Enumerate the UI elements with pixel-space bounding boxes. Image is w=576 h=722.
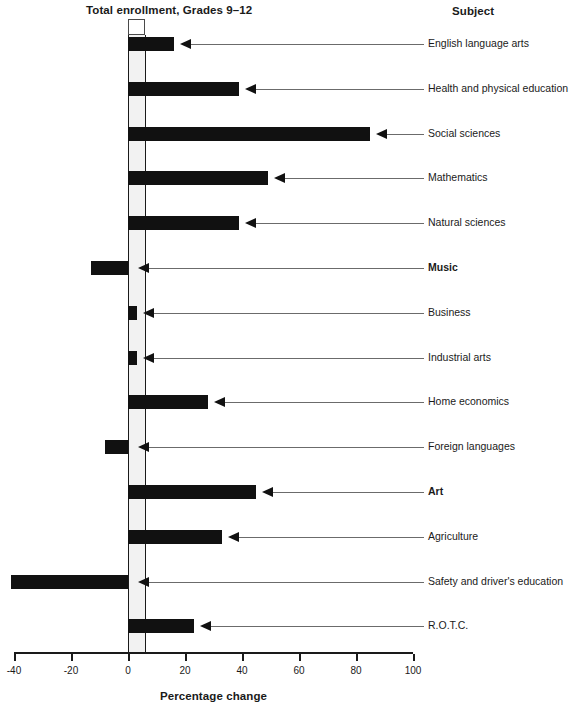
- leader-arrow: [228, 532, 239, 542]
- x-axis-tick: [14, 654, 16, 661]
- category-label: Natural sciences: [428, 216, 506, 228]
- leader-arrow: [143, 353, 154, 363]
- leader-line: [191, 44, 424, 45]
- leader-line: [154, 313, 424, 314]
- bar-business: [128, 306, 137, 320]
- leader-line: [387, 134, 424, 135]
- leader-line: [273, 492, 424, 493]
- leader-arrow: [200, 621, 211, 631]
- category-label: Industrial arts: [428, 351, 491, 363]
- leader-line: [239, 537, 424, 538]
- bar-foreign-languages: [105, 440, 128, 454]
- bar-health-and-physical-education: [128, 82, 239, 96]
- category-label: English language arts: [428, 37, 529, 49]
- leader-arrow: [245, 84, 256, 94]
- x-axis-tick: [242, 654, 244, 661]
- category-label: Social sciences: [428, 127, 500, 139]
- bar-natural-sciences: [128, 216, 239, 230]
- leader-arrow: [274, 173, 285, 183]
- bar-r-o-t-c: [128, 619, 194, 633]
- enrollment-reference-title: Total enrollment, Grades 9–12: [86, 4, 252, 16]
- category-label: Home economics: [428, 395, 509, 407]
- x-axis-tick: [185, 654, 187, 661]
- x-axis-tick-label: 80: [350, 665, 361, 676]
- category-label: Art: [428, 485, 443, 497]
- leader-line: [225, 402, 424, 403]
- bar-chart: Total enrollment, Grades 9–12 Subject En…: [0, 0, 576, 722]
- leader-arrow: [143, 308, 154, 318]
- x-axis-tick: [128, 654, 130, 661]
- bar-art: [128, 485, 256, 499]
- x-axis-tick-label: 20: [179, 665, 190, 676]
- category-label: R.O.T.C.: [428, 619, 468, 631]
- category-label: Mathematics: [428, 171, 488, 183]
- category-label: Safety and driver's education: [428, 575, 563, 587]
- x-axis-tick: [356, 654, 358, 661]
- bar-safety-and-driver-s-education: [11, 575, 128, 589]
- x-axis-tick: [71, 654, 73, 661]
- x-axis-tick-label: 100: [405, 665, 422, 676]
- category-label: Music: [428, 261, 458, 273]
- x-axis-tick-label: 0: [125, 665, 131, 676]
- leader-line: [256, 223, 424, 224]
- bar-mathematics: [128, 171, 268, 185]
- leader-arrow: [180, 39, 191, 49]
- x-axis-tick-label: -40: [7, 665, 21, 676]
- category-label: Business: [428, 306, 471, 318]
- bar-english-language-arts: [128, 37, 174, 51]
- x-axis-title: Percentage change: [14, 690, 413, 702]
- leader-arrow: [376, 129, 387, 139]
- leader-arrow: [262, 487, 273, 497]
- bar-social-sciences: [128, 127, 370, 141]
- leader-arrow: [138, 442, 149, 452]
- leader-arrow: [138, 577, 149, 587]
- x-axis-line: [14, 652, 413, 654]
- x-axis-tick-label: 40: [236, 665, 247, 676]
- leader-line: [149, 447, 424, 448]
- x-axis-tick: [299, 654, 301, 661]
- leader-line: [149, 582, 424, 583]
- x-axis-tick-label: -20: [64, 665, 78, 676]
- leader-line: [256, 89, 424, 90]
- bar-agriculture: [128, 530, 222, 544]
- bar-home-economics: [128, 395, 208, 409]
- bar-industrial-arts: [128, 351, 137, 365]
- category-label: Agriculture: [428, 530, 478, 542]
- leader-arrow: [214, 397, 225, 407]
- leader-line: [154, 358, 424, 359]
- x-axis-tick-label: 60: [293, 665, 304, 676]
- subject-column-heading: Subject: [452, 5, 494, 17]
- x-axis-tick: [413, 654, 415, 661]
- enrollment-key-box: [128, 19, 145, 35]
- leader-arrow: [138, 263, 149, 273]
- category-label: Health and physical education: [428, 82, 568, 94]
- leader-line: [149, 268, 424, 269]
- leader-arrow: [245, 218, 256, 228]
- bar-music: [91, 261, 128, 275]
- leader-line: [285, 178, 424, 179]
- leader-line: [211, 626, 424, 627]
- category-label: Foreign languages: [428, 440, 515, 452]
